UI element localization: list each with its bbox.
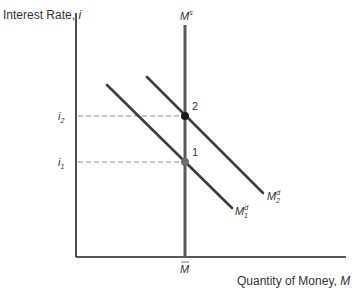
i1-tick-label: i1	[58, 156, 64, 170]
money-supply-label: Ms	[180, 9, 193, 22]
money-demand-2-curve	[147, 77, 263, 193]
point-1-label: 1	[192, 146, 198, 158]
money-demand-1-label: Md1	[235, 204, 249, 219]
y-axis-label: Interest Rate, i	[3, 8, 81, 22]
money-demand-1-curve	[107, 85, 232, 208]
x-axis-label: Quantity of Money, M	[237, 274, 350, 288]
equilibrium-point-2	[181, 112, 189, 120]
equilibrium-point-1	[181, 158, 189, 166]
i2-tick-label: i2	[58, 110, 64, 124]
money-demand-2-label: Md2	[267, 189, 281, 204]
point-2-label: 2	[192, 100, 198, 112]
m-bar-tick-label: M	[180, 263, 190, 275]
money-market-diagram: Interest Rate, i Quantity of Money, M i2…	[0, 0, 357, 297]
